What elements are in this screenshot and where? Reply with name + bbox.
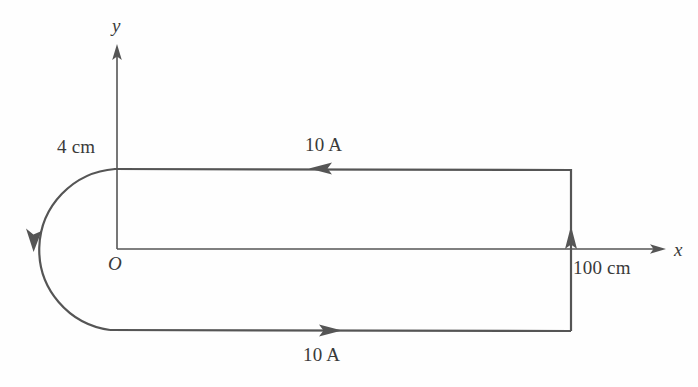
bottom-current-label: 10 A	[303, 345, 340, 364]
circuit-diagram-svg	[0, 0, 698, 387]
x-axis-label: x	[674, 240, 682, 259]
y-axis-label: y	[112, 16, 120, 35]
top-current-label: 10 A	[305, 135, 342, 154]
radius-label: 4 cm	[57, 137, 95, 156]
origin-label: O	[108, 254, 122, 273]
left-semicircular-arc	[26, 169, 115, 330]
bottom-straight-wire	[110, 325, 571, 337]
top-straight-wire	[114, 163, 571, 175]
physics-figure: y x O 4 cm 10 A 10 A 100 cm	[0, 0, 698, 387]
y-axis	[112, 44, 122, 249]
x-axis	[117, 244, 666, 254]
right-vertical-wire	[565, 169, 577, 331]
length-label: 100 cm	[573, 258, 631, 277]
